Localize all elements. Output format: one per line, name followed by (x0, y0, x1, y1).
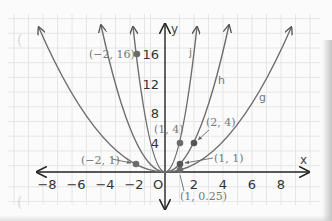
x-tick-6: 6 (248, 177, 256, 192)
leader-1-025 (180, 175, 184, 191)
annotation-2-4: (2, 4) (206, 116, 236, 129)
annotation-1-1: (1, 1) (214, 152, 244, 165)
margin-mark-top: ( (17, 32, 22, 48)
page-bottom-shadow (0, 215, 332, 221)
y-tick-12: 12 (142, 77, 159, 92)
origin-label: O (153, 177, 163, 192)
x-tick-minus-6: −6 (66, 177, 85, 192)
point-minus2-1 (133, 161, 140, 168)
y-axis-label: y (171, 22, 178, 36)
y-tick-16: 16 (142, 47, 159, 62)
point-1-4 (177, 140, 184, 147)
x-tick-minus-4: −4 (95, 177, 114, 192)
curve-label-j: j (188, 46, 192, 59)
y-tick-8: 8 (151, 106, 159, 121)
x-tick-minus-2: −2 (124, 177, 143, 192)
curve-label-h: h (218, 74, 225, 87)
leader-2-4 (198, 130, 209, 140)
x-axis-label: x (300, 153, 307, 167)
point-1-025 (177, 167, 184, 174)
margin-mark-bottom: ( (17, 194, 22, 210)
x-tick-minus-8: −8 (37, 177, 56, 192)
parabola-graph: −8 −6 −4 −2 2 4 6 8 O 16 12 8 4 y x j h … (0, 0, 332, 221)
point-2-4 (191, 140, 198, 147)
annotation-1-025: (1, 0.25) (180, 190, 227, 203)
curve-label-g: g (259, 91, 266, 104)
y-tick-4: 4 (151, 136, 159, 151)
annotation-minus2-16: (−2, 16) (89, 48, 135, 61)
annotation-1-4: (1, 4) (154, 123, 184, 136)
page-edge-shadow (322, 40, 332, 221)
annotation-minus2-1: (−2, 1) (81, 154, 120, 167)
point-1-1 (177, 161, 184, 168)
x-tick-8: 8 (277, 177, 285, 192)
